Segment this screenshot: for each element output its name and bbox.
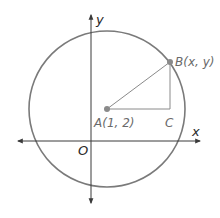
origin-label: O xyxy=(78,143,88,158)
point-b-label: B(x, y) xyxy=(175,55,214,69)
coordinate-plane-diagram: y x O A(1, 2) C B(x, y) xyxy=(0,0,220,218)
y-axis-label: y xyxy=(95,12,104,27)
point-a xyxy=(104,106,110,112)
point-b xyxy=(167,59,173,65)
point-c-label: C xyxy=(165,116,174,130)
point-a-label: A(1, 2) xyxy=(93,116,134,130)
x-axis-label: x xyxy=(191,124,200,139)
segment-ab xyxy=(107,62,170,109)
